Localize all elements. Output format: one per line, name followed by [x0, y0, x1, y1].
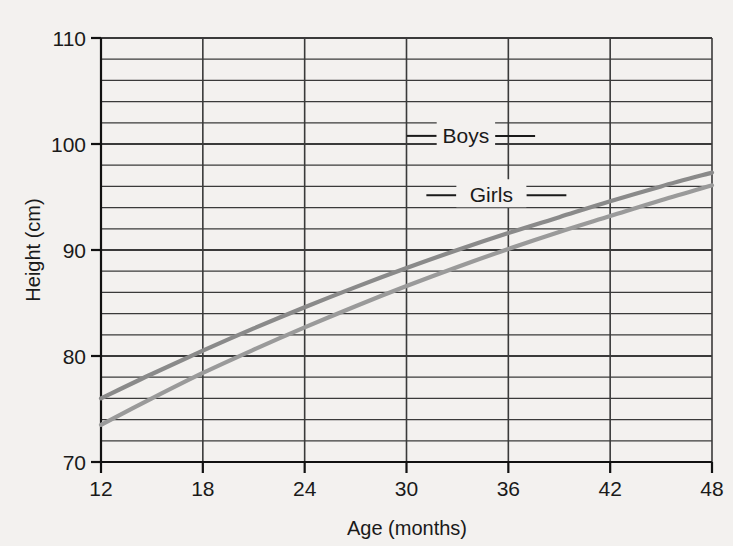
- y-tick-label: 70: [63, 451, 86, 474]
- x-axis-title: Age (months): [347, 517, 467, 539]
- y-tick-label: 110: [53, 27, 86, 50]
- chart-background: [0, 0, 733, 546]
- growth-chart-page: 708090100110 12182430364248 Age (months)…: [0, 0, 733, 546]
- annotation-label-boys: Boys: [443, 124, 490, 147]
- x-tick-label: 36: [497, 477, 520, 500]
- x-tick-label: 24: [293, 477, 317, 500]
- chart-container: 708090100110 12182430364248 Age (months)…: [0, 0, 733, 546]
- y-axis-title: Height (cm): [22, 198, 44, 301]
- y-tick-label: 100: [51, 133, 86, 156]
- x-tick-label: 42: [598, 477, 621, 500]
- y-tick-label: 90: [63, 239, 86, 262]
- x-tick-label: 18: [191, 477, 214, 500]
- x-tick-label: 12: [89, 477, 112, 500]
- annotation-label-girls: Girls: [470, 183, 513, 206]
- x-tick-label: 30: [395, 477, 418, 500]
- x-tick-label: 48: [700, 477, 723, 500]
- growth-chart-svg: 708090100110 12182430364248 Age (months)…: [0, 0, 733, 546]
- y-tick-label: 80: [63, 345, 86, 368]
